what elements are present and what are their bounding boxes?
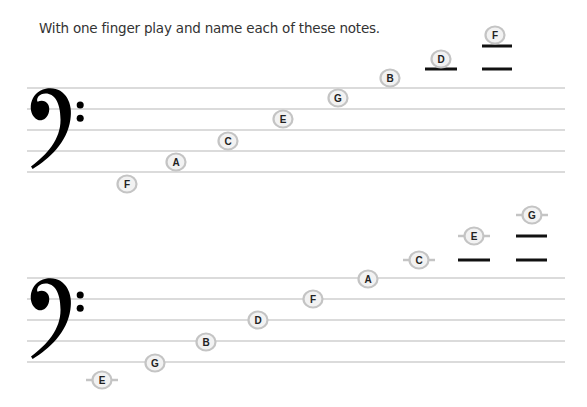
note-letter: G: [151, 358, 159, 369]
note-a[interactable]: A: [167, 154, 186, 171]
note-e[interactable]: E: [274, 111, 293, 128]
note-letter: F: [492, 30, 498, 41]
note-letter: E: [471, 231, 478, 242]
note-f[interactable]: F: [304, 291, 323, 308]
note-letter: F: [310, 294, 316, 305]
staff-1: FACEGBDF: [27, 27, 565, 193]
note-letter: E: [99, 375, 106, 386]
note-letter: B: [202, 337, 209, 348]
note-d[interactable]: D: [249, 312, 268, 329]
note-d[interactable]: D: [432, 51, 451, 68]
note-e[interactable]: E: [86, 372, 118, 389]
note-f[interactable]: F: [118, 176, 137, 193]
staff-2: EGBDFACEG: [27, 207, 565, 389]
note-b[interactable]: B: [197, 334, 216, 351]
note-letter: E: [280, 114, 287, 125]
bass-clef-icon: [31, 88, 84, 169]
note-g[interactable]: G: [146, 355, 165, 372]
note-letter: G: [528, 210, 536, 221]
note-g[interactable]: G: [516, 207, 548, 224]
note-letter: B: [386, 73, 393, 84]
note-b[interactable]: B: [381, 70, 400, 87]
note-letter: C: [415, 255, 422, 266]
note-letter: A: [364, 274, 371, 285]
note-letter: F: [124, 179, 130, 190]
note-c[interactable]: C: [219, 133, 238, 150]
note-letter: C: [224, 136, 231, 147]
bass-clef-icon: [31, 278, 84, 359]
note-e[interactable]: E: [458, 228, 490, 245]
note-a[interactable]: A: [359, 271, 378, 288]
note-f[interactable]: F: [486, 27, 505, 44]
note-letter: A: [172, 157, 179, 168]
note-g[interactable]: G: [329, 90, 348, 107]
note-letter: D: [437, 54, 444, 65]
music-sheet: FACEGBDF EGBDFACEG: [0, 0, 587, 407]
note-letter: D: [254, 315, 261, 326]
note-c[interactable]: C: [403, 252, 435, 269]
note-letter: G: [334, 93, 342, 104]
